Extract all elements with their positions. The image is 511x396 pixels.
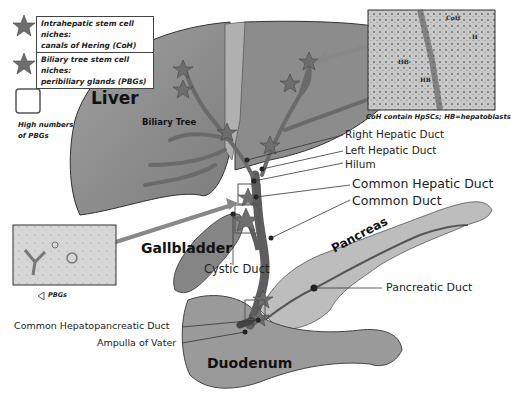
- inset-label-hb: HB: [398, 58, 409, 65]
- label-biliary-tree: Biliary Tree: [142, 117, 196, 127]
- star-icon: [13, 53, 35, 74]
- label-gallbladder: Gallbladder: [141, 240, 232, 256]
- label-left-hepatic-duct: Left Hepatic Duct: [345, 144, 436, 156]
- label-hilum: Hilum: [345, 158, 376, 170]
- square-outline-icon: [16, 89, 40, 113]
- star-icon: [13, 15, 35, 36]
- arrowhead-marker-icon: [38, 292, 44, 300]
- inset-label-h: H: [472, 33, 478, 40]
- legend-line: peribiliary glands (PBGs): [41, 76, 149, 87]
- label-duodenum: Duodenum: [207, 355, 292, 371]
- inset-label-hb: HB: [420, 76, 431, 83]
- legend-line: of PBGs: [18, 131, 73, 142]
- label-common-hepatic-duct: Common Hepatic Duct: [352, 176, 494, 191]
- label-common-hepatopancreatic-duct: Common Hepatopancreatic Duct: [14, 320, 170, 331]
- legend-line: Intrahepatic stem cell niches:: [41, 18, 149, 40]
- legend-line: High numbers: [18, 120, 73, 131]
- label-pancreatic-duct: Pancreatic Duct: [386, 281, 472, 294]
- label-ampulla-of-vater: Ampulla of Vater: [97, 337, 176, 348]
- label-common-duct: Common Duct: [352, 193, 442, 208]
- legend-item-high-pbg: High numbers of PBGs: [18, 120, 73, 142]
- legend-item-pbg: Biliary tree stem cell niches: peribilia…: [36, 52, 154, 89]
- legend-line: Biliary tree stem cell niches:: [41, 54, 149, 76]
- legend-line: canals of Hering (CoH): [41, 40, 149, 51]
- label-right-hepatic-duct: Right Hepatic Duct: [345, 128, 444, 140]
- legend-item-coh: Intrahepatic stem cell niches: canals of…: [36, 16, 154, 53]
- label-cystic-duct: Cystic Duct: [204, 262, 270, 276]
- inset-label-coh: CoH: [446, 14, 460, 21]
- inset-caption-coh: CoH contain HpSCs; HB=hepatoblasts: [366, 113, 511, 121]
- inset-caption-pbg: PBGs: [48, 291, 67, 299]
- label-liver: Liver: [91, 88, 139, 108]
